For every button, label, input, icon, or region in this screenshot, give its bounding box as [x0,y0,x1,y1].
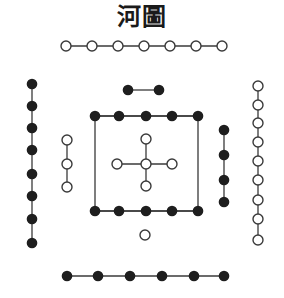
hetu-diagram [0,0,284,298]
top-row-group [61,41,227,51]
white-dot [253,100,263,110]
white-dot [253,118,263,128]
black-dot [123,85,134,96]
white-dot [253,81,263,91]
black-dot [27,123,38,134]
black-dot [27,101,38,112]
left-column-group [27,79,38,249]
white-dot [112,159,122,169]
white-dot [141,159,151,169]
black-dot [27,169,38,180]
inner-left-group [62,135,72,192]
black-dot [219,150,230,161]
bottom-row-group [62,271,230,282]
black-dot [90,206,101,217]
white-dot [61,41,71,51]
black-dot [193,111,204,122]
black-dot [114,206,125,217]
black-dot [157,271,168,282]
white-dot [253,235,263,245]
black-dot [189,271,200,282]
white-dot [140,230,150,240]
inner-right-group [219,125,230,208]
black-dot [125,271,136,282]
white-dot [141,134,151,144]
white-dot [253,156,263,166]
black-dot [219,175,230,186]
white-dot [113,41,123,51]
black-dot [27,191,38,202]
black-dot [27,145,38,156]
black-dot [62,271,73,282]
square-top-group [90,111,204,122]
white-dot [62,135,72,145]
black-dot [141,111,152,122]
black-dot [167,111,178,122]
white-dot [87,41,97,51]
white-dot [191,41,201,51]
black-dot [27,214,38,225]
black-dot [141,206,152,217]
white-dot [253,214,263,224]
white-dot [253,137,263,147]
white-dot [165,41,175,51]
white-dot [62,159,72,169]
black-dot [90,111,101,122]
white-dot [253,195,263,205]
white-dot [217,41,227,51]
inner-top-group [123,85,165,96]
square-bottom-group [90,206,204,217]
white-dot [62,182,72,192]
black-dot [93,271,104,282]
black-dot [27,238,38,249]
white-dot [139,41,149,51]
inner-bottom-group [140,230,150,240]
black-dot [114,111,125,122]
black-dot [219,271,230,282]
black-dot [154,85,165,96]
center-cross-group [112,134,177,191]
white-dot [167,159,177,169]
black-dot [193,206,204,217]
right-column-group [253,81,263,245]
white-dot [141,181,151,191]
black-dot [27,79,38,90]
black-dot [219,125,230,136]
black-dot [219,197,230,208]
white-dot [253,175,263,185]
black-dot [167,206,178,217]
